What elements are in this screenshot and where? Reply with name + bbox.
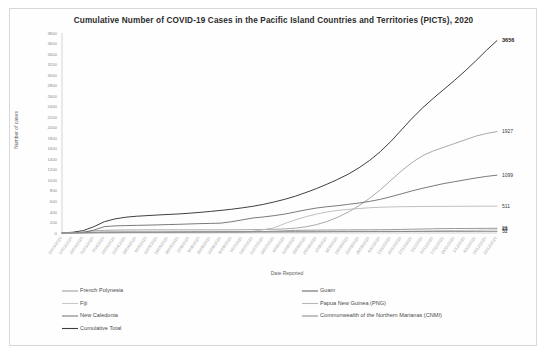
y-tick-label: 600	[50, 199, 58, 204]
series-line	[62, 41, 497, 233]
legend-label[interactable]: New Caledonia	[80, 312, 119, 318]
y-tick-label: 1000	[47, 178, 57, 183]
series-end-label: 511	[502, 203, 510, 209]
legend-label[interactable]: Cumulative Total	[80, 325, 121, 331]
y-tick-label: 3600	[47, 41, 57, 46]
y-tick-label: 1400	[47, 157, 57, 162]
chart-legend: French PolynesiaFijiNew CaledoniaCumulat…	[62, 287, 442, 331]
y-tick-label: 800	[50, 188, 58, 193]
y-tick-label: 400	[50, 210, 58, 215]
legend-label[interactable]: Fiji	[80, 300, 87, 306]
y-tick-label: 0	[55, 231, 58, 236]
legend-label[interactable]: Commonwealth of the Northern Marianas (C…	[320, 312, 442, 318]
screenshot-root: Cumulative Number of COVID-19 Cases in t…	[0, 0, 547, 356]
axis-lines	[62, 33, 497, 233]
y-tick-label: 3200	[47, 62, 57, 67]
y-tick-label: 2600	[47, 94, 57, 99]
y-tick-label: 1200	[47, 167, 57, 172]
y-tick-label: 2400	[47, 104, 57, 109]
y-tick-label: 3400	[47, 52, 57, 57]
y-tick-label: 1600	[47, 146, 57, 151]
y-tick-label: 2000	[47, 125, 57, 130]
chart-plot-area: 3800360034003200300028002600240022002000…	[0, 0, 547, 356]
x-axis-title: Date Reported	[271, 270, 304, 276]
y-tick-label: 200	[50, 220, 58, 225]
legend-label[interactable]: Guam	[320, 287, 336, 293]
line-chart-svg: 3800360034003200300028002600240022002000…	[0, 0, 547, 356]
y-tick-label: 3800	[47, 31, 57, 36]
series-line	[62, 132, 497, 233]
series-end-label: 1927	[502, 128, 513, 134]
y-axis-title: Number of cases	[13, 111, 19, 149]
series-line	[62, 175, 497, 233]
y-tick-label: 2200	[47, 115, 57, 120]
y-tick-label: 1800	[47, 136, 57, 141]
data-series-lines	[62, 41, 497, 233]
series-end-label: 26	[502, 225, 508, 231]
y-tick-label: 3000	[47, 73, 57, 78]
y-tick-label: 2800	[47, 83, 57, 88]
x-axis-tick-labels: 10/03/202017/03/202024/03/202031/03/2020…	[47, 235, 498, 255]
y-axis-tick-labels: 3800360034003200300028002600240022002000…	[47, 31, 57, 236]
series-end-value-labels: 365619271099511633226	[502, 37, 514, 234]
series-end-label: 1099	[502, 172, 513, 178]
legend-label[interactable]: Papua New Guinea (PNG)	[320, 300, 386, 306]
legend-label[interactable]: French Polynesia	[80, 287, 124, 293]
series-end-label: 3656	[502, 37, 514, 43]
